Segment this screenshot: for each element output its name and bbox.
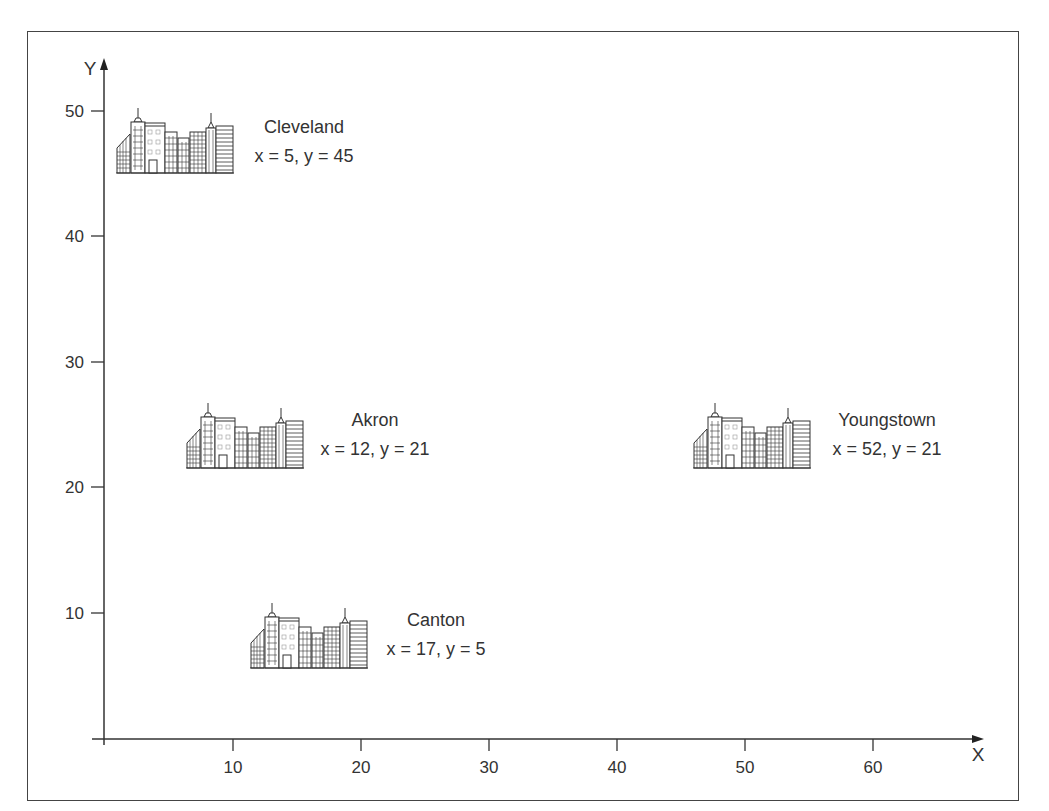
coordinate-plane: Y X 50 40 30 20 10 10 20 30 40 50 60 Cle… bbox=[0, 0, 1049, 811]
city-marker-canton: Canton x = 17, y = 5 bbox=[386, 610, 485, 659]
x-tick-label: 20 bbox=[352, 758, 371, 777]
city-skyline-icon bbox=[693, 403, 811, 468]
x-tick-label: 50 bbox=[736, 758, 755, 777]
y-tick-label: 20 bbox=[65, 478, 84, 497]
city-coordinates: x = 52, y = 21 bbox=[832, 439, 941, 459]
city-skyline-icon bbox=[116, 108, 234, 173]
city-skyline-icon bbox=[250, 603, 368, 668]
city-skyline-icon bbox=[186, 403, 304, 468]
city-marker-akron: Akron x = 12, y = 21 bbox=[320, 410, 429, 459]
y-axis-label: Y bbox=[84, 58, 97, 79]
y-tick-label: 40 bbox=[65, 227, 84, 246]
x-axis bbox=[92, 735, 984, 751]
city-coordinates: x = 12, y = 21 bbox=[320, 439, 429, 459]
city-coordinates: x = 17, y = 5 bbox=[386, 639, 485, 659]
y-tick-label: 50 bbox=[65, 102, 84, 121]
y-axis-arrow-icon bbox=[100, 58, 108, 70]
city-name: Youngstown bbox=[838, 410, 935, 430]
city-coordinates: x = 5, y = 45 bbox=[254, 146, 353, 166]
y-tick-label: 30 bbox=[65, 353, 84, 372]
x-tick-label: 10 bbox=[224, 758, 243, 777]
x-tick-label: 60 bbox=[864, 758, 883, 777]
x-tick-label: 30 bbox=[480, 758, 499, 777]
city-name: Akron bbox=[351, 410, 398, 430]
city-marker-youngstown: Youngstown x = 52, y = 21 bbox=[832, 410, 941, 459]
city-marker-cleveland: Cleveland x = 5, y = 45 bbox=[254, 117, 353, 166]
x-axis-arrow-icon bbox=[972, 735, 984, 743]
x-axis-label: X bbox=[972, 744, 985, 765]
city-name: Canton bbox=[407, 610, 465, 630]
y-tick-label: 10 bbox=[65, 604, 84, 623]
x-tick-label: 40 bbox=[608, 758, 627, 777]
city-name: Cleveland bbox=[264, 117, 344, 137]
y-axis bbox=[91, 58, 108, 745]
